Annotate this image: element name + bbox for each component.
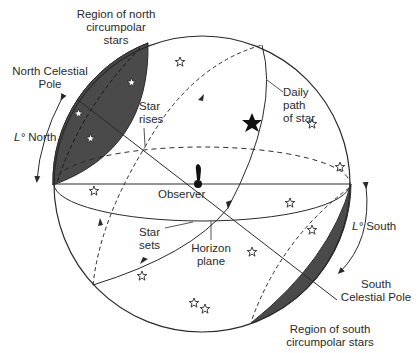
label-line: North Celestial <box>10 65 90 78</box>
star-icon <box>242 113 262 132</box>
label-line: Horizon <box>186 242 236 255</box>
label-star-rises: Star rises <box>139 100 163 126</box>
label-line: South <box>336 278 416 291</box>
label-line: Daily <box>283 86 315 99</box>
label-line: Pole <box>10 78 90 91</box>
label-observer: Observer <box>158 188 205 201</box>
label-south-celestial-pole: South Celestial Pole <box>336 278 416 304</box>
latitude-word: South <box>366 220 396 232</box>
label-line: plane <box>186 255 236 268</box>
label-south-circumpolar: Region of south circumpolar stars <box>280 323 380 349</box>
label-line: stars <box>76 34 156 47</box>
label-north-celestial-pole: North Celestial Pole <box>10 65 90 91</box>
label-line: Celestial Pole <box>336 291 416 304</box>
label-daily-path: Daily path of star <box>283 86 315 125</box>
label-line: path <box>283 99 315 112</box>
label-line: of star <box>283 112 315 125</box>
observer-dot <box>194 180 202 188</box>
label-line: Star <box>139 226 160 239</box>
label-horizon-plane: Horizon plane <box>186 242 236 268</box>
label-line: Star <box>139 100 163 113</box>
observer-figure <box>196 164 201 180</box>
latitude-symbol: L° <box>352 220 363 232</box>
label-north-circumpolar: Region of north circumpolar stars <box>76 8 156 47</box>
label-line: circumpolar <box>76 21 156 34</box>
polar-axis <box>78 100 337 300</box>
label-star-sets: Star sets <box>139 226 160 252</box>
label-line: sets <box>139 239 160 252</box>
label-line: Region of south <box>280 323 380 336</box>
south-dashed-path <box>251 188 349 322</box>
latitude-word: North <box>28 131 56 143</box>
latitude-symbol: L° <box>14 131 25 143</box>
daily-path-back-lower <box>93 147 145 285</box>
label-line: Region of north <box>76 8 156 21</box>
label-line: rises <box>139 113 163 126</box>
observer-text: Observer <box>158 188 205 200</box>
label-latitude-south: L° South <box>352 220 396 233</box>
label-latitude-north: L° North <box>14 131 56 144</box>
label-line: circumpolar stars <box>280 336 380 349</box>
